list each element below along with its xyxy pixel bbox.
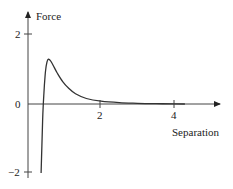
x-tick-label-4: 4 bbox=[171, 109, 177, 121]
y-tick-label-2: 2 bbox=[15, 28, 21, 40]
force-curve bbox=[41, 59, 185, 173]
y-tick-label-0: 0 bbox=[15, 98, 21, 110]
y-tick-label-neg2: −2 bbox=[8, 166, 20, 178]
x-axis-label: Separation bbox=[172, 126, 220, 138]
x-tick-label-2: 2 bbox=[97, 109, 103, 121]
y-axis-label: Force bbox=[36, 10, 61, 22]
force-separation-chart: Force Separation 2 0 −2 2 4 bbox=[0, 0, 233, 189]
